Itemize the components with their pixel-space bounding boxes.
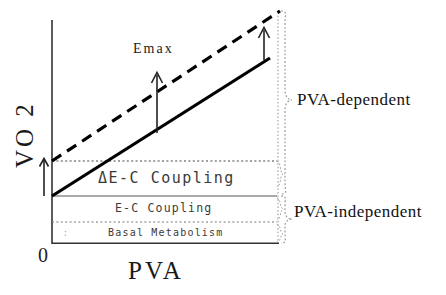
pva-independent-brace <box>281 196 292 243</box>
vo2-pva-diagram: VO 2 PVA 0 Emax ΔE-C Coupling E-C Coupli… <box>0 0 446 295</box>
bracket-label-pva-independent: PVA-independent <box>294 203 422 220</box>
y-axis-label: VO 2 <box>12 101 37 168</box>
x-axis-label: PVA <box>128 258 184 283</box>
diagram-canvas <box>0 0 446 295</box>
band-label-delta-ec-coupling: ΔE-C Coupling <box>98 171 235 186</box>
series-dashed-line <box>52 11 280 161</box>
origin-label: 0 <box>38 245 48 265</box>
band-brace-notches <box>277 161 283 242</box>
band-label-basal-metabolism: Basal Metabolism <box>108 228 224 238</box>
notch-ec <box>277 198 283 220</box>
band-label-ec-coupling: E-C Coupling <box>115 203 212 215</box>
stray-mark: : <box>63 230 68 238</box>
emax-arrow <box>152 73 163 134</box>
pva-dependent-brace <box>281 11 292 194</box>
y-intercept-shift-arrow <box>40 159 49 197</box>
emax-label: Emax <box>133 42 174 56</box>
bracket-label-pva-dependent: PVA-dependent <box>297 91 411 108</box>
right-end-shift-arrow <box>259 28 270 61</box>
